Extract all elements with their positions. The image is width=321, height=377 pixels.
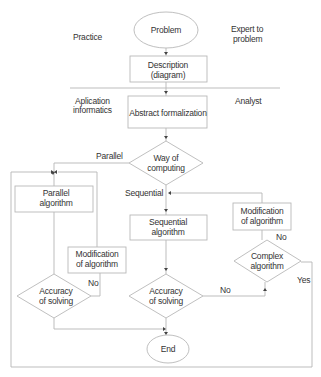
label-expert-2: problem [233,34,262,44]
arrowhead [164,332,168,335]
text-complex: Complex [251,251,284,261]
text-mod-right: Modification [241,206,284,216]
text-complex-2: algorithm [250,261,283,271]
text-parallel-alg-2: algorithm [39,198,72,208]
text-acc-left: Accuracy [39,286,73,296]
label-analyst: Analyst [235,96,262,106]
arrowhead [164,136,168,139]
edge-modright-back [170,193,262,203]
edge-label-no-left: No [88,278,99,288]
text-sequential-alg: Sequential [149,217,187,227]
arrowhead [168,191,171,195]
text-acc-left-2: of solving [39,296,73,306]
text-end: End [161,344,176,354]
edge-label-yes: Yes [297,275,310,285]
arrowhead [164,52,168,55]
arrowhead [164,91,168,94]
arrowhead [164,209,168,212]
label-practice: Practice [73,32,103,42]
text-mod-right-2: of algorithm [241,216,283,226]
text-parallel-alg: Parallel [43,188,70,198]
label-expert: Expert to [231,24,264,34]
text-mod-left-2: of algorithm [76,259,118,269]
text-abstract: Abstract formalization [129,108,207,118]
text-way: Way of [154,153,180,163]
text-acc-mid-2: of solving [149,296,183,306]
text-mod-left: Modification [76,249,119,259]
text-sequential-alg-2: algorithm [151,227,184,237]
edge-label-parallel: Parallel [96,151,123,161]
text-problem: Problem [151,25,181,35]
flowchart: Practice Expert to problem Aplication in… [0,0,321,377]
label-informatics: informatics [73,105,112,115]
edge-accleft-end [54,318,164,329]
edge-label-sequential: Sequential [125,188,163,198]
arrowhead [164,268,168,271]
edge-label-no-mid: No [220,285,231,295]
edge-parallel [54,163,129,186]
edge-label-no-right: No [276,232,287,242]
edge-accmid-no [203,282,265,296]
text-description-2: (diagram) [151,70,186,80]
text-acc-mid: Accuracy [149,286,183,296]
text-way-2: computing [147,163,185,173]
text-description: Description [148,60,189,70]
arrowhead [263,288,267,291]
